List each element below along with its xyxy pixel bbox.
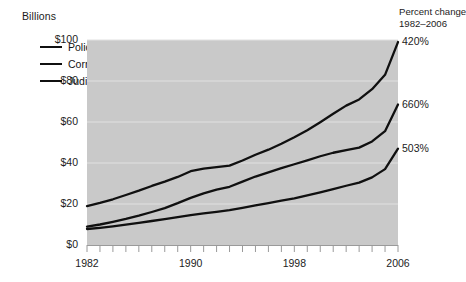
x-axis [87, 245, 398, 252]
plot-background [87, 40, 398, 245]
